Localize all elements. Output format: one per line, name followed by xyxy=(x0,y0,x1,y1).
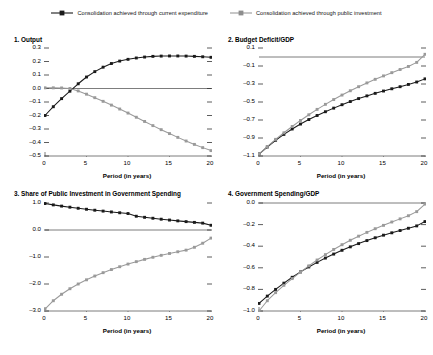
data-point-marker xyxy=(307,118,310,121)
plot-area-government-spending-gdp xyxy=(258,202,424,310)
y-tick-label: 0.3 xyxy=(15,43,41,50)
data-point-marker xyxy=(176,136,179,139)
y-tick-label: –1.0 xyxy=(15,252,41,259)
data-point-marker xyxy=(210,149,212,152)
panel-title-share-public-investment: 3. Share of Public Investment in Governm… xyxy=(14,190,181,197)
data-point-marker xyxy=(93,275,96,278)
data-point-marker xyxy=(382,74,385,77)
data-point-marker xyxy=(77,89,80,92)
data-point-marker xyxy=(407,83,410,86)
data-point-marker xyxy=(390,231,393,234)
panel-budget-deficit-gdp: 2. Budget Deficit/GDP –1.1–0.9–0.7–0.5–0… xyxy=(228,36,433,184)
data-point-marker xyxy=(424,53,426,56)
y-tick-label: 0.0 xyxy=(229,198,255,205)
plot-svg xyxy=(258,47,426,157)
y-tick-label: –0.2 xyxy=(15,111,41,118)
data-point-marker xyxy=(176,219,179,222)
y-tick-label: –0.7 xyxy=(229,115,255,122)
data-point-marker xyxy=(316,108,319,111)
series-line-0 xyxy=(259,222,425,304)
y-tick-label: –0.3 xyxy=(229,79,255,86)
data-point-marker xyxy=(291,125,294,128)
data-point-marker xyxy=(299,119,302,122)
y-tick-label: –3.0 xyxy=(15,306,41,313)
data-point-marker xyxy=(85,278,88,281)
data-point-marker xyxy=(341,103,344,106)
plot-area-budget-deficit-gdp xyxy=(258,47,424,155)
data-point-marker xyxy=(44,86,46,89)
data-point-marker xyxy=(68,87,71,90)
panel-government-spending-gdp: 4. Government Spending/GDP –1.0–0.8–0.6–… xyxy=(228,190,433,342)
data-point-marker xyxy=(399,68,402,71)
figure-root: Consolidation achieved through current e… xyxy=(0,0,433,355)
data-point-marker xyxy=(415,61,418,64)
x-axis-label: Period (in years) xyxy=(44,327,210,334)
data-point-marker xyxy=(274,288,277,291)
data-point-marker xyxy=(143,120,146,123)
data-point-marker xyxy=(193,143,196,146)
data-point-marker xyxy=(77,82,80,85)
x-tick-label: 0 xyxy=(248,314,268,321)
data-point-marker xyxy=(415,210,418,213)
data-point-marker xyxy=(118,108,121,111)
x-tick-label: 5 xyxy=(76,314,96,321)
data-point-marker xyxy=(168,55,171,58)
data-point-marker xyxy=(201,55,204,58)
y-tick-label: 0.1 xyxy=(15,70,41,77)
data-point-marker xyxy=(316,259,319,262)
data-point-marker xyxy=(151,124,154,127)
square-marker-icon xyxy=(230,9,252,17)
data-point-marker xyxy=(415,224,418,227)
data-point-marker xyxy=(118,211,121,214)
y-tick-label: –0.2 xyxy=(229,220,255,227)
data-point-marker xyxy=(291,277,294,280)
data-point-marker xyxy=(316,114,319,117)
data-point-marker xyxy=(324,257,327,260)
data-point-marker xyxy=(349,100,352,103)
data-point-marker xyxy=(93,209,96,212)
data-point-marker xyxy=(127,212,130,215)
data-point-marker xyxy=(266,145,269,148)
data-point-marker xyxy=(332,253,335,256)
data-point-marker xyxy=(110,211,113,214)
data-point-marker xyxy=(93,96,96,99)
data-point-marker xyxy=(85,208,88,211)
data-point-marker xyxy=(185,140,188,143)
data-point-marker xyxy=(291,128,294,131)
legend-entry-current-expenditure: Consolidation achieved through current e… xyxy=(51,9,208,17)
data-point-marker xyxy=(135,215,138,218)
plot-svg xyxy=(258,202,426,312)
data-point-marker xyxy=(332,248,335,251)
x-tick-label: 15 xyxy=(159,314,179,321)
data-point-marker xyxy=(44,114,46,117)
data-point-marker xyxy=(357,97,360,100)
data-point-marker xyxy=(52,299,55,302)
data-point-marker xyxy=(399,85,402,88)
data-point-marker xyxy=(60,205,63,208)
x-tick-label: 5 xyxy=(290,159,310,166)
y-tick-label: –0.3 xyxy=(15,124,41,131)
data-point-marker xyxy=(357,85,360,88)
data-point-marker xyxy=(365,239,368,242)
data-point-marker xyxy=(118,265,121,268)
x-tick-label: 5 xyxy=(290,314,310,321)
data-point-marker xyxy=(127,112,130,115)
data-point-marker xyxy=(201,146,204,149)
data-point-marker xyxy=(85,76,88,79)
data-point-marker xyxy=(60,97,63,100)
y-tick-label: –1.1 xyxy=(229,151,255,158)
y-tick-label: –0.1 xyxy=(15,97,41,104)
panel-share-public-investment: 3. Share of Public Investment in Governm… xyxy=(14,190,219,342)
data-point-marker xyxy=(135,57,138,60)
y-tick-label: –0.4 xyxy=(229,241,255,248)
data-point-marker xyxy=(102,66,105,69)
y-tick-label: 0.1 xyxy=(229,43,255,50)
data-point-marker xyxy=(274,291,277,294)
data-point-marker xyxy=(390,71,393,74)
data-point-marker xyxy=(266,295,269,298)
y-tick-label: –0.4 xyxy=(15,138,41,145)
data-point-marker xyxy=(407,214,410,217)
data-point-marker xyxy=(168,219,171,222)
data-point-marker xyxy=(424,77,426,80)
data-point-marker xyxy=(349,245,352,248)
